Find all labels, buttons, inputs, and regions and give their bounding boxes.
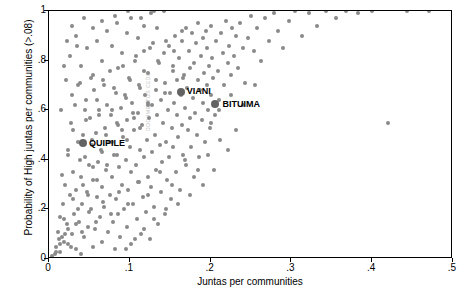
data-point bbox=[287, 19, 291, 23]
data-point bbox=[166, 257, 170, 258]
data-point bbox=[100, 185, 104, 189]
data-point bbox=[192, 61, 196, 65]
data-point bbox=[160, 257, 164, 258]
point-label: BITUIMA bbox=[222, 99, 260, 109]
data-point bbox=[136, 111, 140, 115]
data-point bbox=[95, 257, 99, 258]
data-point bbox=[212, 168, 216, 172]
data-point bbox=[252, 49, 256, 53]
data-point bbox=[83, 108, 87, 112]
data-point bbox=[87, 257, 91, 258]
data-point bbox=[87, 163, 91, 167]
data-point bbox=[70, 257, 74, 258]
data-point bbox=[142, 227, 146, 231]
data-point bbox=[79, 175, 83, 179]
data-point bbox=[68, 193, 72, 197]
data-point bbox=[156, 59, 160, 63]
data-point bbox=[77, 257, 81, 258]
data-point bbox=[172, 49, 176, 53]
data-point bbox=[307, 11, 311, 15]
data-point bbox=[131, 111, 135, 115]
data-point bbox=[193, 111, 197, 115]
y-tick-label: .6 bbox=[0, 103, 46, 114]
data-point bbox=[386, 121, 390, 125]
data-point bbox=[76, 83, 80, 87]
data-point bbox=[133, 257, 137, 258]
data-point bbox=[126, 202, 130, 206]
data-point bbox=[72, 257, 76, 258]
data-point bbox=[59, 108, 63, 112]
x-axis-label: Juntas per communities bbox=[48, 276, 452, 287]
data-point bbox=[171, 64, 175, 68]
data-point bbox=[97, 108, 101, 112]
data-point bbox=[189, 145, 193, 149]
data-point bbox=[207, 64, 211, 68]
data-point bbox=[188, 193, 192, 197]
data-point bbox=[82, 235, 86, 239]
data-point bbox=[293, 10, 297, 13]
data-point bbox=[149, 185, 153, 189]
x-tick-mark bbox=[129, 258, 130, 262]
data-point bbox=[86, 225, 90, 229]
data-point bbox=[281, 46, 285, 50]
x-tick-label: .5 bbox=[448, 262, 456, 273]
data-point bbox=[122, 207, 126, 211]
data-point bbox=[172, 257, 176, 258]
data-point bbox=[116, 123, 120, 127]
data-point bbox=[171, 145, 175, 149]
data-point bbox=[67, 257, 71, 258]
data-point bbox=[96, 160, 100, 164]
data-point bbox=[114, 91, 118, 95]
data-point bbox=[101, 78, 105, 82]
data-point bbox=[158, 143, 162, 147]
data-point bbox=[209, 121, 213, 125]
data-point bbox=[138, 126, 142, 130]
data-point bbox=[124, 96, 128, 100]
data-point bbox=[128, 145, 132, 149]
data-point bbox=[167, 155, 171, 159]
data-point bbox=[162, 51, 166, 55]
data-point bbox=[58, 215, 62, 219]
data-point bbox=[102, 83, 106, 87]
data-point bbox=[64, 257, 68, 258]
data-point bbox=[98, 215, 102, 219]
data-point bbox=[133, 59, 137, 63]
data-point bbox=[226, 148, 230, 152]
data-point bbox=[106, 230, 110, 234]
data-point bbox=[105, 29, 109, 33]
data-point bbox=[126, 10, 130, 13]
data-point bbox=[172, 101, 176, 105]
data-point bbox=[173, 34, 177, 38]
data-point bbox=[159, 98, 163, 102]
data-point bbox=[75, 44, 79, 48]
data-point bbox=[84, 118, 88, 122]
x-tick-mark bbox=[371, 258, 372, 262]
data-point bbox=[164, 207, 168, 211]
data-point bbox=[177, 56, 181, 60]
data-point bbox=[124, 158, 128, 162]
data-point bbox=[190, 31, 194, 35]
data-point bbox=[150, 103, 154, 107]
data-point bbox=[259, 59, 263, 63]
data-point bbox=[227, 44, 231, 48]
data-point bbox=[171, 69, 175, 73]
data-point bbox=[69, 121, 73, 125]
data-point bbox=[142, 24, 146, 28]
data-point bbox=[154, 257, 158, 258]
data-point bbox=[116, 212, 120, 216]
data-point bbox=[152, 10, 156, 13]
data-point bbox=[52, 257, 56, 258]
x-tick-label: .3 bbox=[286, 262, 294, 273]
data-point bbox=[110, 44, 114, 48]
data-point bbox=[187, 49, 191, 53]
data-point bbox=[93, 227, 97, 231]
data-point bbox=[144, 210, 148, 214]
data-point bbox=[205, 46, 209, 50]
data-point bbox=[53, 257, 57, 258]
data-point bbox=[129, 170, 133, 174]
data-point bbox=[160, 160, 164, 164]
data-point bbox=[272, 11, 276, 15]
data-point bbox=[236, 66, 240, 70]
data-point bbox=[238, 21, 242, 25]
data-point bbox=[176, 135, 180, 139]
